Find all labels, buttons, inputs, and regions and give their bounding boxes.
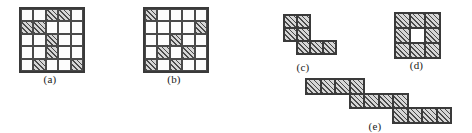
panel-d-label: (d)	[394, 59, 439, 71]
grid-cell	[33, 34, 45, 46]
grid-cell	[157, 59, 169, 71]
grid-cell	[33, 9, 45, 21]
grid-cell	[58, 34, 70, 46]
grid-cell	[58, 59, 70, 71]
grid-cell	[157, 34, 169, 46]
grid-cell	[182, 9, 194, 21]
grid-cell	[170, 34, 182, 46]
grid-a	[19, 7, 85, 73]
grid-cell	[170, 46, 182, 58]
grid-cell	[182, 21, 194, 33]
panel-d: (d)	[394, 12, 439, 57]
panel-a-label: (a)	[19, 73, 81, 85]
grid-cell	[46, 9, 58, 21]
grid-cell	[157, 9, 169, 21]
grid-cell	[145, 9, 157, 21]
grid-cell	[182, 59, 194, 71]
panel-a: (a)	[19, 7, 85, 73]
grid-cell	[21, 21, 33, 33]
grid-cell	[21, 46, 33, 58]
grid-cell	[195, 21, 207, 33]
panel-b-label: (b)	[143, 73, 205, 85]
polyomino-c	[283, 14, 343, 59]
polyomino-cell	[436, 107, 453, 124]
grid-cell	[195, 59, 207, 71]
grid-cell	[71, 46, 83, 58]
grid-b	[143, 7, 209, 73]
grid-cell	[46, 34, 58, 46]
polyomino-cell	[322, 40, 337, 55]
panel-b: (b)	[143, 7, 209, 73]
grid-cell	[58, 46, 70, 58]
polyomino-d	[394, 12, 439, 57]
grid-cell	[33, 59, 45, 71]
grid-cell	[145, 21, 157, 33]
grid-cell	[195, 9, 207, 21]
grid-cell	[157, 21, 169, 33]
grid-cell	[170, 9, 182, 21]
grid-cell	[71, 34, 83, 46]
grid-cell	[21, 34, 33, 46]
grid-cell	[33, 21, 45, 33]
grid-cell	[46, 46, 58, 58]
grid-cell	[46, 59, 58, 71]
grid-cell	[33, 46, 45, 58]
grid-cell	[182, 46, 194, 58]
grid-cell	[145, 59, 157, 71]
grid-cell	[58, 21, 70, 33]
panel-e: (e)	[305, 78, 455, 123]
grid-cell	[58, 9, 70, 21]
grid-cell	[71, 21, 83, 33]
grid-cell	[71, 9, 83, 21]
polyomino-e	[305, 78, 455, 123]
grid-cell	[182, 34, 194, 46]
panel-c: (c)	[283, 14, 343, 59]
grid-cell	[195, 34, 207, 46]
grid-cell	[145, 34, 157, 46]
grid-cell	[195, 46, 207, 58]
polyomino-cell	[424, 42, 441, 59]
grid-cell	[21, 59, 33, 71]
panel-c-label: (c)	[283, 61, 323, 73]
figure-root: (a) (b) (c) (d) (e)	[0, 0, 472, 133]
polyomino-hole	[409, 27, 426, 44]
grid-cell	[71, 59, 83, 71]
grid-cell	[145, 46, 157, 58]
grid-cell	[170, 59, 182, 71]
grid-cell	[21, 9, 33, 21]
panel-e-label: (e)	[350, 120, 400, 132]
grid-cell	[46, 21, 58, 33]
grid-cell	[170, 21, 182, 33]
grid-cell	[157, 46, 169, 58]
